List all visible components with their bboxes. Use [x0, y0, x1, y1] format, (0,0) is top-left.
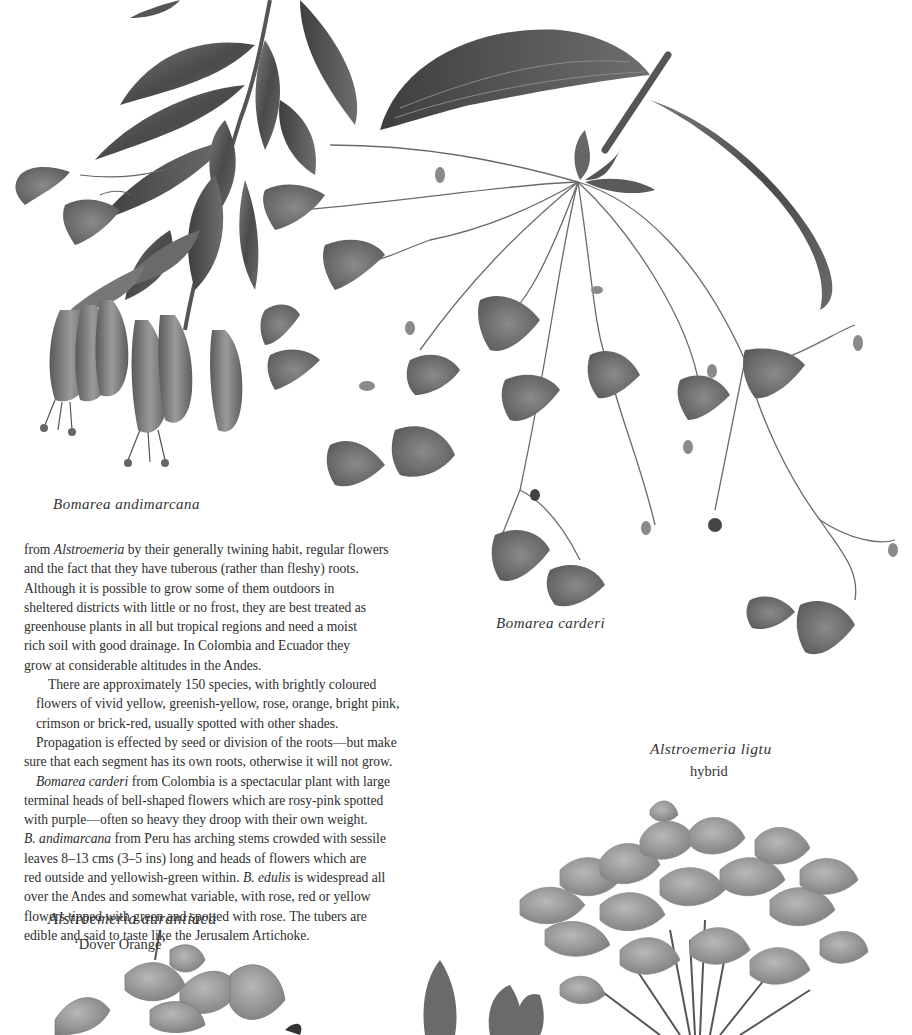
paragraph-1: from Alstroemeria by their generally twi…: [24, 540, 434, 675]
paragraph-2: There are approximately 150 species, wit…: [24, 675, 434, 733]
body-text: from Alstroemeria by their generally twi…: [24, 540, 434, 945]
caption-alstroemeria-ligtu: Alstroemeria ligtu: [650, 740, 772, 758]
paragraph-3: Propagation is effected by seed or divis…: [24, 733, 434, 772]
alstroemeria-ligtu-illustration: [520, 801, 868, 1035]
caption-bomarea-andimarcana: Bomarea andimarcana: [53, 496, 200, 513]
caption-bomarea-carderi: Bomarea carderi: [496, 615, 605, 632]
paragraph-4: Bomarea carderi from Colombia is a spect…: [24, 772, 434, 946]
bomarea-andimarcana-illustration: [15, 0, 357, 467]
caption-alstroemeria-ligtu-sub: hybrid: [690, 763, 728, 780]
